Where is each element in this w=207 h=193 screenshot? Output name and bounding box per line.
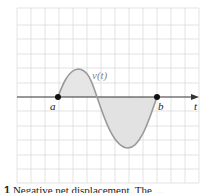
function-label: v(t)	[92, 69, 108, 82]
grid	[17, 8, 199, 183]
displacement-diagram: a b t v(t)	[0, 0, 207, 193]
caption-text: Negative net displacement. The ...	[13, 184, 163, 193]
figure-caption: 1 Negative net displacement. The ...	[4, 184, 163, 193]
caption-number: 1	[4, 184, 10, 193]
t-axis-label: t	[194, 100, 198, 112]
point-a-label: a	[50, 100, 56, 112]
point-b-label: b	[158, 100, 164, 112]
point-a-dot	[55, 94, 61, 100]
